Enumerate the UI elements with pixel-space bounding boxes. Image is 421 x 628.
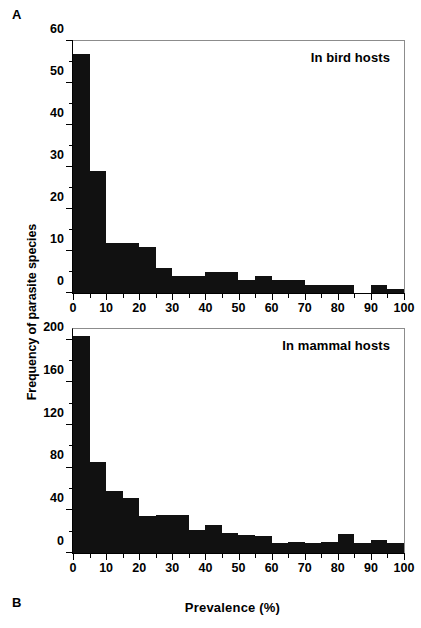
histogram-bar — [354, 543, 371, 553]
x-tick-major — [338, 293, 339, 300]
x-tick-minor — [123, 553, 124, 558]
y-tick-minor — [69, 187, 74, 188]
x-tick-major — [139, 553, 140, 560]
histogram-bar — [73, 336, 90, 553]
x-tick-major — [106, 553, 107, 560]
series-title-bird-hosts: In bird hosts — [311, 50, 390, 65]
x-tick-major — [371, 553, 372, 560]
x-tick-minor — [354, 553, 355, 558]
x-tick-minor — [255, 293, 256, 298]
y-tick-minor — [69, 360, 74, 361]
x-tick-minor — [255, 553, 256, 558]
chart-panel-bird-hosts: In bird hosts 01020304050600102030405060… — [0, 22, 421, 312]
histogram-bar — [272, 280, 289, 293]
y-tick-minor — [69, 271, 74, 272]
x-tick-minor — [156, 553, 157, 558]
x-tick-minor — [387, 553, 388, 558]
x-tick-major — [305, 553, 306, 560]
x-tick-label: 70 — [298, 302, 312, 315]
bars-layer-bird-hosts — [73, 41, 404, 293]
x-tick-major — [338, 553, 339, 560]
y-tick-label: 40 — [50, 492, 64, 505]
x-tick-minor — [189, 553, 190, 558]
histogram-bar — [73, 54, 90, 293]
y-tick-major — [66, 339, 73, 340]
x-tick-label: 80 — [331, 562, 345, 575]
x-tick-label: 80 — [331, 302, 345, 315]
x-tick-label: 90 — [364, 302, 378, 315]
x-tick-minor — [321, 553, 322, 558]
histogram-bar — [222, 533, 239, 553]
histogram-bar — [139, 516, 156, 553]
x-tick-major — [239, 553, 240, 560]
histogram-bar — [338, 534, 355, 553]
y-tick-minor — [69, 403, 74, 404]
x-tick-minor — [123, 293, 124, 298]
histogram-bar — [90, 462, 107, 553]
y-tick-label: 20 — [50, 190, 64, 203]
x-tick-label: 0 — [70, 562, 77, 575]
plot-area-bird-hosts: In bird hosts 01020304050600102030405060… — [72, 40, 405, 294]
y-tick-minor — [69, 61, 74, 62]
x-tick-label: 20 — [132, 302, 146, 315]
y-tick-label: 80 — [50, 449, 64, 462]
y-tick-label: 0 — [57, 534, 64, 547]
x-tick-minor — [354, 293, 355, 298]
histogram-bar — [172, 276, 189, 293]
x-tick-minor — [222, 293, 223, 298]
y-tick-minor — [69, 531, 74, 532]
y-tick-label: 200 — [43, 321, 64, 334]
x-tick-major — [172, 553, 173, 560]
y-tick-major — [66, 424, 73, 425]
x-tick-major — [272, 293, 273, 300]
y-tick-label: 40 — [50, 106, 64, 119]
x-tick-label: 100 — [394, 562, 415, 575]
histogram-bar — [156, 515, 173, 553]
histogram-bar — [338, 285, 355, 293]
x-tick-label: 10 — [99, 562, 113, 575]
y-tick-major — [66, 250, 73, 251]
x-tick-minor — [222, 553, 223, 558]
x-tick-minor — [288, 553, 289, 558]
histogram-bar — [387, 543, 404, 553]
x-tick-major — [404, 553, 405, 560]
histogram-bar — [106, 491, 123, 553]
y-tick-major — [66, 552, 73, 553]
x-tick-label: 60 — [265, 302, 279, 315]
chart-panel-mammal-hosts: In mammal hosts 040801201602000102030405… — [0, 318, 421, 600]
histogram-bar — [106, 243, 123, 293]
y-tick-major — [66, 208, 73, 209]
x-tick-minor — [321, 293, 322, 298]
x-tick-major — [139, 293, 140, 300]
x-tick-label: 20 — [132, 562, 146, 575]
y-tick-label: 120 — [43, 406, 64, 419]
x-tick-major — [172, 293, 173, 300]
x-tick-major — [404, 293, 405, 300]
x-axis-title: Prevalence (%) — [60, 600, 405, 615]
x-tick-major — [239, 293, 240, 300]
x-tick-major — [205, 553, 206, 560]
y-tick-major — [66, 509, 73, 510]
x-tick-major — [371, 293, 372, 300]
x-tick-major — [73, 553, 74, 560]
histogram-bar — [255, 536, 272, 553]
x-tick-label: 0 — [70, 302, 77, 315]
histogram-bar — [205, 272, 222, 293]
histogram-bar — [288, 542, 305, 553]
histogram-bar — [189, 276, 206, 293]
x-tick-minor — [90, 553, 91, 558]
histogram-bar — [189, 530, 206, 553]
x-tick-minor — [90, 293, 91, 298]
y-tick-label: 60 — [50, 22, 64, 35]
y-tick-major — [66, 82, 73, 83]
series-title-mammal-hosts: In mammal hosts — [282, 338, 390, 353]
x-tick-minor — [156, 293, 157, 298]
y-tick-major — [66, 381, 73, 382]
histogram-bar — [90, 171, 107, 293]
y-tick-major — [66, 467, 73, 468]
x-tick-major — [73, 293, 74, 300]
histogram-bar — [288, 280, 305, 293]
y-tick-major — [66, 40, 73, 41]
histogram-bar — [123, 498, 140, 553]
x-tick-label: 100 — [394, 302, 415, 315]
